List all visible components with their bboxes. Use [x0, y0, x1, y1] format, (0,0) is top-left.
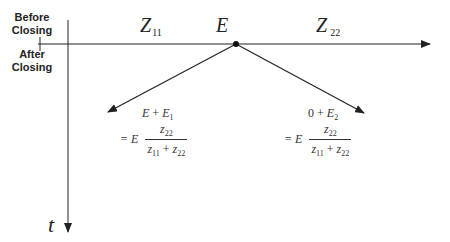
denominator: z11 + z22: [309, 139, 351, 158]
term-b-subscript: 1: [169, 113, 173, 122]
junction-symbol: E: [216, 14, 228, 36]
term-b-subscript: 2: [334, 113, 338, 122]
fraction: z22 z11 + z22: [309, 122, 351, 158]
numerator: z22: [145, 122, 187, 139]
term-a: 0: [308, 106, 314, 120]
impedance-z11-label: Z11: [140, 14, 162, 38]
den-operator: +: [327, 142, 334, 156]
impedance-symbol: Z: [140, 14, 151, 36]
impedance-subscript: 22: [330, 27, 340, 38]
left-wave-fraction: = E z22 z11 + z22: [120, 122, 187, 158]
junction-e-label: E: [216, 14, 228, 37]
den-b-subscript: 22: [177, 149, 185, 158]
impedance-subscript: 11: [152, 27, 162, 38]
num-subscript: 22: [329, 129, 337, 138]
den-b-subscript: 22: [341, 149, 349, 158]
closing-word: Closing: [4, 61, 60, 74]
junction-dot: [233, 41, 239, 47]
fraction: z22 z11 + z22: [145, 122, 187, 158]
impedance-symbol: Z: [316, 14, 327, 36]
num-subscript: 22: [165, 129, 173, 138]
before-closing-label: Before Closing: [4, 11, 60, 37]
numerator: z22: [309, 122, 351, 139]
left-wave-arrow: [108, 44, 236, 112]
operator: +: [152, 106, 159, 120]
right-wave-fraction: = E z22 z11 + z22: [284, 122, 351, 158]
time-axis-label: t: [48, 212, 54, 238]
left-wave-sum: E + E1: [142, 106, 173, 122]
term-a: E: [142, 106, 149, 120]
denominator: z11 + z22: [145, 139, 187, 158]
equals-e: = E: [120, 132, 138, 146]
den-a-subscript: 11: [152, 149, 160, 158]
operator: +: [317, 106, 324, 120]
equals-e: = E: [284, 132, 302, 146]
right-wave-arrow: [236, 44, 364, 113]
after-closing-label: After Closing: [4, 48, 60, 74]
den-operator: +: [163, 142, 170, 156]
time-symbol: t: [48, 212, 54, 237]
right-wave-sum: 0 + E2: [308, 106, 338, 122]
den-a-subscript: 11: [316, 149, 324, 158]
after-word: After: [4, 48, 60, 61]
closing-word: Closing: [4, 24, 60, 37]
impedance-z22-label: Z22: [316, 14, 340, 38]
before-word: Before: [4, 11, 60, 24]
